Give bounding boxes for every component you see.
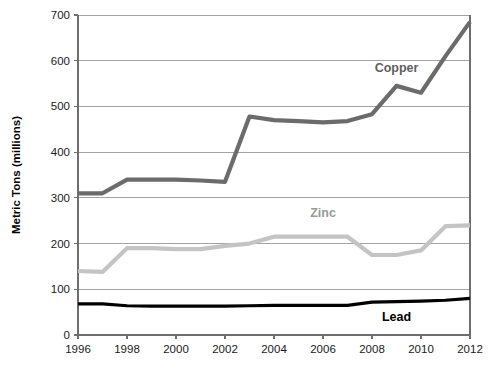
y-tick-label-100: 100 (51, 283, 70, 295)
y-axis-group (74, 15, 78, 335)
line-chart: 0100200300400500600700 19961998200020022… (0, 0, 493, 368)
y-tick-label-400: 400 (51, 146, 70, 158)
x-tick-label-1998: 1998 (114, 343, 140, 355)
y-tick-label-0: 0 (64, 329, 70, 341)
x-tick-label-2008: 2008 (359, 343, 385, 355)
x-tick-labels-group: 199619982000200220042006200820102012 (65, 343, 483, 355)
series-label-lead: Lead (382, 310, 411, 324)
x-tick-label-2006: 2006 (310, 343, 336, 355)
x-tick-label-2010: 2010 (408, 343, 434, 355)
series-label-copper: Copper (375, 61, 419, 75)
y-tick-label-500: 500 (51, 100, 70, 112)
x-tick-label-2000: 2000 (163, 343, 189, 355)
y-axis-title: Metric Tons (millions) (10, 116, 22, 234)
y-tick-labels-group: 0100200300400500600700 (51, 9, 70, 341)
y-tick-label-300: 300 (51, 192, 70, 204)
y-tick-label-700: 700 (51, 9, 70, 21)
x-tick-label-2004: 2004 (261, 343, 287, 355)
x-tick-label-2002: 2002 (212, 343, 238, 355)
series-label-zinc: Zinc (310, 206, 336, 220)
x-axis-group (78, 335, 470, 339)
y-tick-label-600: 600 (51, 55, 70, 67)
x-tick-label-1996: 1996 (65, 343, 91, 355)
x-tick-label-2012: 2012 (457, 343, 483, 355)
series-line-copper (78, 22, 470, 193)
y-tick-label-200: 200 (51, 238, 70, 250)
axis-title-group: Metric Tons (millions) (10, 116, 22, 234)
chart-canvas: 0100200300400500600700 19961998200020022… (0, 0, 493, 368)
series-labels-group: CopperZincLead (310, 61, 418, 324)
series-line-lead (78, 298, 470, 306)
series-line-zinc (78, 225, 470, 272)
